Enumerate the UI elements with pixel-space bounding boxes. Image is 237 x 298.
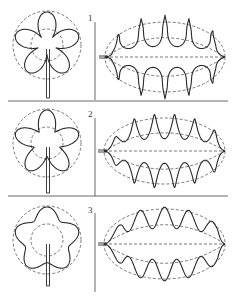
panel-2-leaf-margin-top	[104, 115, 225, 151]
panel-2-label: 2	[88, 110, 93, 119]
panel-1-leaf-inner-arc-top	[105, 38, 225, 57]
panel-1-leaf-margin-top	[105, 15, 225, 57]
panel-1-leaf-inner-arc-bottom	[105, 57, 225, 76]
panel-3-outer-circle	[13, 206, 81, 274]
panel-2-inner-circle	[31, 127, 63, 159]
panel-3-leaf-margin-bottom	[104, 244, 225, 281]
panel-1-leaf-margin-bottom	[105, 57, 225, 99]
panel-3-label: 3	[88, 206, 93, 215]
panel-3-rosette	[15, 207, 79, 268]
panel-3-leaf-inner-arc-top	[104, 225, 225, 244]
panel-1-rosette	[15, 12, 78, 73]
panel-1-label: 1	[88, 14, 93, 23]
figure: 1 2 3	[0, 0, 237, 298]
panel-1-outer-circle	[13, 11, 81, 79]
panel-3-inner-circle	[31, 224, 63, 256]
panel-2-rosette	[15, 110, 78, 171]
panel-2-leaf-margin-bottom	[104, 151, 225, 187]
panel-2-outer-circle	[13, 109, 81, 177]
diagram-canvas	[0, 0, 237, 298]
panel-3-leaf-inner-arc-bottom	[104, 244, 225, 263]
panel-3-leaf-margin-top	[104, 207, 225, 244]
